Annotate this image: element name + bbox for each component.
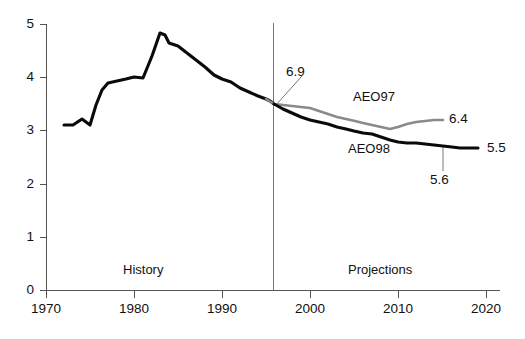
history-region-label: History <box>123 262 163 277</box>
x-tick-label-2000: 2000 <box>287 301 333 316</box>
x-tick-label-1970: 1970 <box>23 301 69 316</box>
projections-region-label: Projections <box>348 262 412 277</box>
series-label-aeo98: AEO98 <box>348 141 390 156</box>
y-tick-label-0: 0 <box>18 282 34 297</box>
energy-price-projection-chart: 5 4 3 2 1 0 1970 1980 1990 2000 2010 202… <box>0 0 525 339</box>
value-label-5-5: 5.5 <box>487 140 506 155</box>
value-label-6-4: 6.4 <box>449 111 468 126</box>
x-tick-label-2010: 2010 <box>375 301 421 316</box>
y-tick-label-2: 2 <box>18 176 34 191</box>
y-tick-label-3: 3 <box>18 122 34 137</box>
value-label-6-9: 6.9 <box>286 64 305 79</box>
leader-line-6-9 <box>275 76 302 106</box>
x-tick-label-2020: 2020 <box>463 301 509 316</box>
chart-plot-area <box>0 0 525 339</box>
x-tick-label-1980: 1980 <box>111 301 157 316</box>
series-label-aeo97: AEO97 <box>353 89 395 104</box>
value-label-5-6: 5.6 <box>430 172 449 187</box>
series-line-history <box>64 33 274 125</box>
y-tick-label-4: 4 <box>18 69 34 84</box>
y-tick-label-5: 5 <box>18 16 34 31</box>
x-tick-label-1990: 1990 <box>199 301 245 316</box>
y-tick-label-1: 1 <box>18 229 34 244</box>
